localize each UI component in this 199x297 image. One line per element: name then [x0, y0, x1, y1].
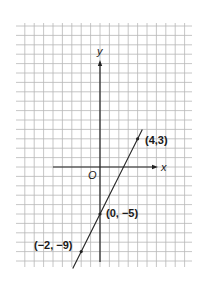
point-label-neg2-neg9: (−2, −9) [34, 240, 73, 251]
axes [53, 60, 158, 262]
x-axis-label: x [161, 162, 167, 173]
point-label-4-3: (4,3) [145, 135, 168, 146]
y-axis-label: y [97, 46, 103, 57]
coordinate-graph: y x O (4,3) (0, −5) (−2, −9) [0, 0, 199, 297]
origin-label: O [88, 170, 97, 181]
plotted-line [73, 129, 143, 268]
point-label-0-neg5: (0, −5) [106, 208, 138, 219]
